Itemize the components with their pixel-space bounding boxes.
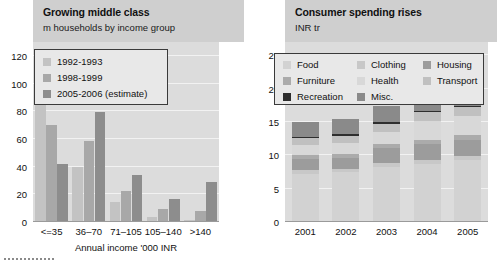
legend-swatch-icon bbox=[43, 74, 51, 82]
legend-item[interactable]: 2005-2006 (estimate) bbox=[43, 88, 147, 99]
chart-figure: Growing middle class m households by inc… bbox=[0, 0, 503, 269]
y-axis-tick-label: 60 bbox=[16, 133, 27, 144]
stacked-bar-2004 bbox=[414, 96, 441, 221]
bar-1992-1993 bbox=[35, 94, 46, 221]
right-chart-title: Consumer spending rises bbox=[295, 6, 422, 18]
dotted-rule-decoration bbox=[4, 258, 56, 260]
bar-1992-1993 bbox=[184, 220, 195, 221]
legend-item[interactable]: 1998-1999 bbox=[43, 72, 102, 83]
bar-2005-2006-estimate- bbox=[169, 199, 180, 221]
x-axis-tick-label: >140 bbox=[190, 226, 211, 237]
y-axis-tick-label: 5 bbox=[274, 183, 279, 194]
x-axis-tick-label: 2005 bbox=[457, 226, 478, 237]
stack-segment-transport bbox=[292, 138, 319, 145]
x-axis-tick-label: 36–70 bbox=[76, 226, 102, 237]
legend-swatch-icon bbox=[283, 77, 291, 85]
legend-label: 1992-1993 bbox=[57, 56, 102, 67]
left-x-axis-label: Annual income '000 INR bbox=[33, 242, 219, 253]
left-chart-title: Growing middle class bbox=[43, 6, 150, 18]
stack-segment-housing bbox=[454, 140, 481, 156]
left-legend: 1992-19931998-19992005-2006 (estimate) bbox=[34, 49, 168, 105]
legend-swatch-icon bbox=[283, 93, 291, 101]
stack-segment-misc- bbox=[332, 119, 359, 134]
left-header-band: Growing middle class m households by inc… bbox=[33, 0, 244, 42]
bar-1992-1993 bbox=[72, 167, 83, 221]
y-axis-tick-label: 20 bbox=[16, 189, 27, 200]
y-axis-tick-label: 0 bbox=[274, 217, 279, 228]
bar-1992-1993 bbox=[110, 202, 121, 221]
right-header-band: Consumer spending rises INR tr bbox=[285, 0, 497, 42]
stack-segment-food bbox=[373, 167, 400, 221]
legend-swatch-icon bbox=[357, 93, 365, 101]
bar-1998-1999 bbox=[121, 191, 132, 221]
gridline bbox=[33, 138, 219, 139]
bar-1998-1999 bbox=[195, 211, 206, 221]
stack-segment-transport bbox=[414, 112, 441, 121]
stack-segment-clothing bbox=[292, 170, 319, 173]
legend-swatch-icon bbox=[423, 61, 431, 69]
legend-swatch-icon bbox=[357, 61, 365, 69]
legend-item[interactable]: Transport bbox=[423, 75, 477, 86]
stack-segment-recreation bbox=[332, 134, 359, 135]
stacked-bar-2003 bbox=[373, 106, 400, 221]
legend-item[interactable]: Health bbox=[357, 75, 398, 86]
bar-1998-1999 bbox=[84, 141, 95, 221]
right-legend: FoodClothingHousingFurnitureHealthTransp… bbox=[274, 53, 484, 105]
y-axis-tick-label: 80 bbox=[16, 106, 27, 117]
left-chart-subtitle: m households by income group bbox=[43, 22, 175, 33]
legend-item[interactable]: Misc. bbox=[357, 91, 393, 102]
stack-segment-food bbox=[454, 160, 481, 221]
y-axis-tick-label: 10 bbox=[268, 150, 279, 161]
stack-segment-furniture bbox=[373, 144, 400, 149]
bar-1992-1993 bbox=[147, 217, 158, 221]
stacked-bar-2001 bbox=[292, 122, 319, 221]
y-axis-tick-label: 15 bbox=[268, 117, 279, 128]
stack-segment-food bbox=[414, 164, 441, 221]
right-x-axis: 20012002200320042005 bbox=[285, 226, 488, 242]
legend-item[interactable]: Food bbox=[283, 59, 319, 70]
legend-item[interactable]: Clothing bbox=[357, 59, 406, 70]
stack-segment-housing bbox=[332, 158, 359, 169]
stack-segment-recreation bbox=[373, 122, 400, 123]
y-axis-tick-label: 40 bbox=[16, 161, 27, 172]
y-axis-tick-label: 100 bbox=[11, 78, 27, 89]
gridline bbox=[33, 110, 219, 111]
x-axis-tick-label: 2001 bbox=[295, 226, 316, 237]
stack-segment-health bbox=[454, 116, 481, 135]
x-axis-tick-label: 2004 bbox=[417, 226, 438, 237]
legend-label: Misc. bbox=[371, 91, 393, 102]
bar-2005-2006-estimate- bbox=[206, 182, 217, 221]
stacked-bar-2005 bbox=[454, 86, 481, 221]
stacked-bar-2002 bbox=[332, 119, 359, 221]
bar-2005-2006-estimate- bbox=[95, 112, 106, 221]
legend-item[interactable]: 1992-1993 bbox=[43, 56, 102, 67]
x-axis-tick-label: 2003 bbox=[376, 226, 397, 237]
stack-segment-furniture bbox=[414, 140, 441, 145]
legend-label: 1998-1999 bbox=[57, 72, 102, 83]
stack-segment-food bbox=[332, 172, 359, 221]
stack-segment-transport bbox=[332, 136, 359, 143]
legend-swatch-icon bbox=[43, 58, 51, 66]
stack-segment-recreation bbox=[292, 137, 319, 138]
legend-label: Housing bbox=[437, 59, 472, 70]
stack-segment-transport bbox=[373, 124, 400, 132]
stack-segment-furniture bbox=[332, 154, 359, 158]
stack-segment-misc- bbox=[373, 106, 400, 123]
legend-label: Food bbox=[297, 59, 319, 70]
bar-2005-2006-estimate- bbox=[132, 175, 143, 221]
stack-segment-health bbox=[414, 121, 441, 140]
legend-swatch-icon bbox=[43, 90, 51, 98]
legend-item[interactable]: Housing bbox=[423, 59, 472, 70]
stack-segment-recreation bbox=[454, 106, 481, 107]
left-chart-panel: Growing middle class m households by inc… bbox=[0, 0, 252, 269]
legend-swatch-icon bbox=[423, 77, 431, 85]
legend-item[interactable]: Recreation bbox=[283, 91, 343, 102]
stack-segment-housing bbox=[292, 159, 319, 170]
legend-item[interactable]: Furniture bbox=[283, 75, 335, 86]
stack-segment-clothing bbox=[373, 163, 400, 167]
legend-label: Health bbox=[371, 75, 398, 86]
left-baseline bbox=[33, 221, 219, 222]
left-y-axis: 020406080100120 bbox=[0, 42, 31, 222]
y-axis-tick-label: 0 bbox=[22, 217, 27, 228]
stack-segment-clothing bbox=[454, 156, 481, 160]
